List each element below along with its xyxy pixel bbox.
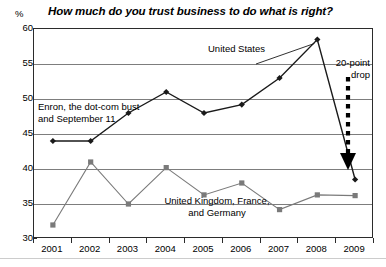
plot-area: Enron, the dot-com bust and September 11… <box>33 28 373 238</box>
x-tick-label: 2006 <box>221 244 261 254</box>
data-point-marker <box>163 89 169 95</box>
x-tick-label: 2009 <box>334 244 374 254</box>
data-point-marker <box>315 192 320 197</box>
footer-divider <box>0 258 386 259</box>
x-tick-label: 2002 <box>70 244 110 254</box>
x-tick-label: 2005 <box>183 244 223 254</box>
y-tick-label: 50 <box>7 93 33 103</box>
annotation-20-point-drop: 20-point drop <box>306 57 370 81</box>
x-tick-label: 2003 <box>107 244 147 254</box>
x-tick-mark <box>71 238 72 243</box>
y-axis-unit-label: % <box>15 8 23 19</box>
x-tick-mark <box>33 238 34 243</box>
data-point-marker <box>164 165 169 170</box>
x-tick-mark <box>222 238 223 243</box>
data-point-marker <box>352 176 358 182</box>
data-point-marker <box>50 222 55 227</box>
x-tick-mark <box>335 238 336 243</box>
x-tick-label: 2007 <box>259 244 299 254</box>
data-point-marker <box>239 180 244 185</box>
y-tick-label: 30 <box>7 233 33 243</box>
y-tick-label: 35 <box>7 198 33 208</box>
chart-container: % How much do you trust business to do w… <box>0 0 386 267</box>
y-tick-label: 45 <box>7 128 33 138</box>
y-tick-label: 60 <box>7 23 33 33</box>
annotation-united-states: United States <box>208 43 265 55</box>
x-tick-label: 2001 <box>32 244 72 254</box>
y-axis: 30354045505560 <box>0 28 33 238</box>
annotation-uk-france-germany: United Kingdom, France, and Germany <box>152 195 282 219</box>
annotation-enron: Enron, the dot-com bust and September 11 <box>38 101 139 125</box>
data-point-marker <box>201 110 207 116</box>
x-tick-mark <box>373 238 374 243</box>
x-tick-mark <box>109 238 110 243</box>
chart-title: How much do you trust business to do wha… <box>48 5 378 17</box>
drop-arrow-head <box>340 153 356 170</box>
footer-source-strip <box>0 261 386 267</box>
x-tick-mark <box>260 238 261 243</box>
y-tick-label: 40 <box>7 163 33 173</box>
data-point-marker <box>353 193 358 198</box>
x-tick-mark <box>297 238 298 243</box>
data-point-marker <box>126 201 131 206</box>
x-tick-label: 2004 <box>145 244 185 254</box>
x-tick-mark <box>184 238 185 243</box>
x-tick-mark <box>146 238 147 243</box>
x-tick-label: 2008 <box>296 244 336 254</box>
data-point-marker <box>50 138 56 144</box>
data-point-marker <box>88 159 93 164</box>
y-tick-label: 55 <box>7 58 33 68</box>
